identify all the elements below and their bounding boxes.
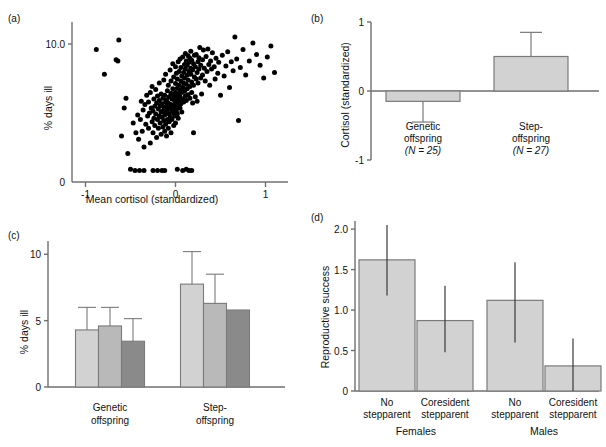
panel-d-category-label: stepparent xyxy=(491,409,538,420)
scatter-point xyxy=(124,96,129,101)
panel-a-yaxis-origin-label: 0 xyxy=(59,177,65,188)
panel-b-ylabel: Cortisol (standardized) xyxy=(339,42,351,148)
scatter-point xyxy=(215,71,220,76)
panel-a: (a) 10.0-1010 % days ill Mean cortisol (… xyxy=(0,0,300,207)
panel-c: (c) 0510GeneticoffspringStep-offspring %… xyxy=(0,207,300,447)
scatter-point xyxy=(133,130,138,135)
scatter-point xyxy=(261,75,266,80)
scatter-point xyxy=(173,121,178,126)
scatter-point xyxy=(191,83,196,88)
scatter-point xyxy=(146,100,151,105)
panel-c-bar xyxy=(204,303,227,387)
panel-c-ytick-label: 10 xyxy=(30,249,42,260)
scatter-point xyxy=(179,109,184,114)
scatter-point xyxy=(184,167,189,172)
scatter-point xyxy=(243,73,248,78)
scatter-point xyxy=(225,49,230,54)
panel-d-group-label: Females xyxy=(396,425,436,437)
panel-d-label: (d) xyxy=(311,212,323,223)
panel-d-ytick-label: 2.0 xyxy=(334,224,348,235)
scatter-point xyxy=(208,58,213,63)
scatter-point xyxy=(204,54,209,59)
scatter-point xyxy=(161,77,166,82)
panel-c-category-label: offspring xyxy=(91,415,129,426)
scatter-point xyxy=(168,67,173,72)
panel-d-ytick-label: 1.0 xyxy=(334,305,348,316)
scatter-point xyxy=(254,52,259,57)
panel-b-ytick-label: 1 xyxy=(358,17,364,28)
scatter-point xyxy=(163,72,168,77)
panel-b-category-label: offspring xyxy=(512,133,550,144)
scatter-point xyxy=(234,56,239,61)
scatter-point xyxy=(131,121,136,126)
scatter-point xyxy=(216,60,221,65)
panel-d-category-label: stepparent xyxy=(549,409,596,420)
scatter-point xyxy=(164,133,169,138)
panel-b-category-label: offspring xyxy=(404,133,442,144)
scatter-point xyxy=(166,126,171,131)
scatter-point xyxy=(196,81,201,86)
scatter-point xyxy=(175,111,180,116)
scatter-point xyxy=(162,168,167,173)
panel-d-svg: (d) 00.51.01.52.0NostepparentCoresidents… xyxy=(303,207,606,447)
scatter-point xyxy=(265,55,270,60)
scatter-point xyxy=(223,63,228,68)
panel-c-bar xyxy=(76,330,99,387)
scatter-point xyxy=(207,83,212,88)
scatter-point xyxy=(229,59,234,64)
panel-a-xtick-label: 1 xyxy=(263,189,269,200)
panel-a-label: (a) xyxy=(8,13,20,24)
panel-a-svg: (a) 10.0-1010 % days ill Mean cortisol (… xyxy=(0,0,300,207)
panel-d-group-label: Males xyxy=(530,425,558,437)
scatter-point xyxy=(153,87,158,92)
panel-c-category-label: Genetic xyxy=(93,402,127,413)
panel-b-bar xyxy=(494,57,568,92)
panel-d-ytick-label: 1.5 xyxy=(334,265,348,276)
panel-c-ylabel: % days ill xyxy=(18,310,30,354)
scatter-point xyxy=(189,90,194,95)
scatter-point xyxy=(142,144,147,149)
scatter-point xyxy=(148,140,153,145)
scatter-point xyxy=(222,74,227,79)
panel-d-category-label: stepparent xyxy=(421,409,468,420)
panel-d-category-label: Coresident xyxy=(549,397,598,408)
scatter-point xyxy=(133,168,138,173)
scatter-point xyxy=(200,73,205,78)
scatter-points-group xyxy=(94,34,277,173)
scatter-point xyxy=(176,116,181,121)
scatter-point xyxy=(151,130,156,135)
panel-b-category-label: Step- xyxy=(519,121,543,132)
scatter-point xyxy=(203,78,208,83)
scatter-point xyxy=(187,96,192,101)
panel-a-xlabel: Mean cortisol (standardized) xyxy=(86,193,218,205)
panel-b-bar xyxy=(386,91,460,101)
panel-c-svg: (c) 0510GeneticoffspringStep-offspring %… xyxy=(0,207,300,447)
panel-d-category-label: Coresident xyxy=(421,397,470,408)
panel-c-category-label: offspring xyxy=(196,415,234,426)
panel-c-bar xyxy=(122,341,145,387)
scatter-point xyxy=(236,118,241,123)
scatter-point xyxy=(189,168,194,173)
scatter-point xyxy=(205,69,210,74)
scatter-point xyxy=(146,126,151,131)
scatter-point xyxy=(227,85,232,90)
scatter-point xyxy=(154,135,159,140)
scatter-point xyxy=(125,151,130,156)
scatter-point xyxy=(157,81,162,86)
scatter-point xyxy=(212,64,217,69)
scatter-point xyxy=(268,43,273,48)
panel-c-label: (c) xyxy=(8,230,20,241)
scatter-point xyxy=(115,58,120,63)
scatter-point xyxy=(141,107,146,112)
scatter-point xyxy=(238,65,243,70)
scatter-point xyxy=(122,106,127,111)
panel-d-category-label: stepparent xyxy=(363,409,410,420)
scatter-point xyxy=(155,168,160,173)
scatter-point xyxy=(151,168,156,173)
scatter-point xyxy=(166,83,171,88)
panel-a-ytick-label: 10.0 xyxy=(46,39,66,50)
panel-d-category-label: No xyxy=(381,397,394,408)
scatter-point xyxy=(193,94,198,99)
panel-b: (b) -101Geneticoffspring(N = 25)Step-off… xyxy=(303,0,606,207)
panel-c-bar xyxy=(227,310,250,387)
